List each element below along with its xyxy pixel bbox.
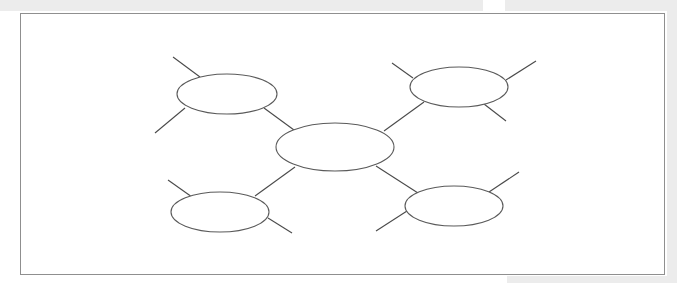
node-ellipse-bottom-left	[171, 192, 269, 232]
node-ellipse-top-right	[410, 67, 508, 107]
spoke-line-bottom-left	[168, 180, 192, 197]
spoke-line-top-right	[484, 104, 506, 121]
node-bottom-left	[171, 192, 269, 232]
connector-center-to-bottom-left	[255, 167, 295, 196]
connector-center-to-top-right	[384, 102, 424, 131]
node-ellipse-bottom-right	[405, 186, 503, 226]
node-center	[276, 123, 394, 171]
spider-map-diagram	[0, 0, 677, 283]
spoke-line-top-left	[173, 57, 200, 77]
node-ellipse-center	[276, 123, 394, 171]
nodes-layer	[171, 67, 508, 232]
connector-center-to-bottom-right	[376, 166, 418, 193]
spoke-line-bottom-left	[268, 218, 292, 233]
connector-center-to-top-left	[264, 108, 294, 130]
node-top-right	[410, 67, 508, 107]
spoke-line-top-right	[392, 63, 413, 78]
node-bottom-right	[405, 186, 503, 226]
spoke-line-top-right	[506, 61, 536, 80]
node-top-left	[177, 74, 277, 114]
spoke-line-bottom-right	[489, 172, 519, 192]
spoke-line-bottom-right	[376, 211, 407, 231]
node-ellipse-top-left	[177, 74, 277, 114]
spoke-line-top-left	[155, 108, 185, 133]
